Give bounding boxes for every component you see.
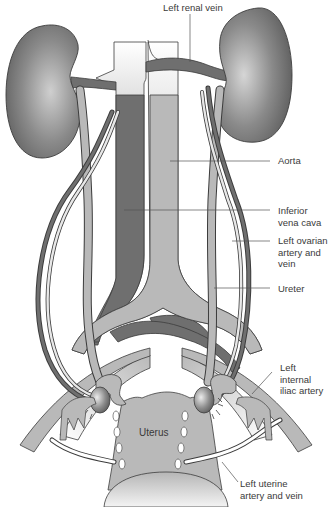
right-kidney bbox=[6, 25, 80, 158]
label-inferior-vena-cava: Inferior vena cava bbox=[278, 205, 321, 228]
label-left-uterine-artery-and-vein: Left uterine artery and vein bbox=[240, 478, 303, 501]
left-kidney bbox=[218, 8, 292, 142]
label-aorta: Aorta bbox=[278, 155, 301, 167]
left-ovary bbox=[194, 387, 214, 413]
label-ureter: Ureter bbox=[278, 283, 304, 295]
label-left-internal-iliac-artery: Left internal iliac artery bbox=[280, 362, 323, 397]
label-left-renal-vein: Left renal vein bbox=[163, 2, 223, 14]
label-uterus: Uterus bbox=[139, 427, 168, 438]
label-left-ovarian-artery-and-vein: Left ovarian artery and vein bbox=[278, 235, 328, 270]
